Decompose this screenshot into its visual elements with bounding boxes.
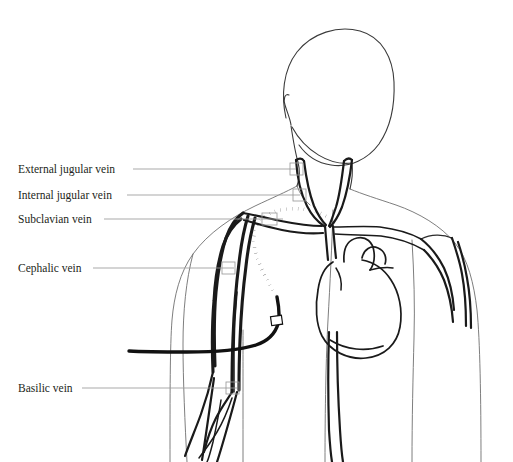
catheter-hub-clamp bbox=[270, 315, 282, 325]
venous-anatomy-figure: External jugular vein Internal jugular v… bbox=[0, 0, 513, 462]
inferior-vena-cava-left-wall bbox=[328, 332, 332, 462]
brachial-vein-right bbox=[452, 238, 466, 326]
axilla-right-apex bbox=[421, 235, 452, 239]
venous-system-group bbox=[185, 159, 471, 462]
left-arm-outer-contour bbox=[183, 254, 193, 462]
inferior-vena-cava-right-wall bbox=[337, 332, 343, 462]
label-cephalic-vein: Cephalic vein bbox=[18, 263, 82, 275]
label-external-jugular-vein: External jugular vein bbox=[18, 164, 115, 176]
anatomy-svg-canvas bbox=[0, 0, 513, 462]
ear-outline bbox=[284, 95, 291, 125]
head-and-face-outline bbox=[284, 29, 395, 166]
shoulder-right-outline bbox=[350, 189, 481, 462]
label-basilic-vein: Basilic vein bbox=[18, 383, 73, 395]
catheter-external-solid-tubing bbox=[129, 297, 279, 352]
head-group bbox=[284, 29, 395, 189]
subclavian-vein-right-upper bbox=[334, 227, 421, 239]
cephalic-vein-right bbox=[424, 250, 453, 322]
label-subclavian-vein: Subclavian vein bbox=[18, 214, 92, 226]
superior-vena-cava bbox=[325, 226, 328, 260]
label-internal-jugular-vein: Internal jugular vein bbox=[18, 190, 112, 202]
jugular-right-apex-join bbox=[344, 159, 352, 161]
internal-jugular-vein-left bbox=[304, 161, 326, 225]
aortic-arch bbox=[344, 238, 374, 270]
superior-vena-cava-right-wall bbox=[333, 226, 336, 258]
torso-right-inner-contour bbox=[412, 240, 414, 462]
heart-apex-detail bbox=[336, 268, 341, 290]
